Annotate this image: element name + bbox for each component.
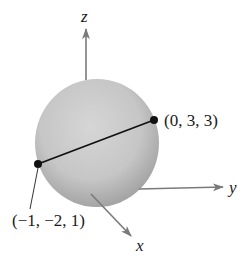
y-axis xyxy=(139,187,223,189)
y-axis-label: y xyxy=(227,178,237,197)
sphere xyxy=(35,79,159,207)
endpoint-b-label: (0, 3, 3) xyxy=(164,111,218,130)
sphere-diagram: z y x (−1, −2, 1) (0, 3, 3) xyxy=(0,0,245,259)
x-axis-label: x xyxy=(135,236,144,255)
z-axis-label: z xyxy=(80,7,88,26)
endpoint-a xyxy=(34,160,42,168)
endpoint-b xyxy=(150,116,158,124)
endpoint-a-label: (−1, −2, 1) xyxy=(12,211,85,230)
endpoint-a-leader xyxy=(30,168,38,209)
